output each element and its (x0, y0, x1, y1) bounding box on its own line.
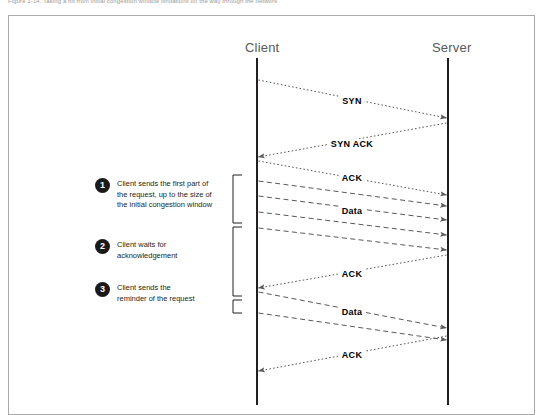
message-label-data-2: Data (339, 206, 366, 216)
annotation-badge-1: 1 (95, 178, 110, 193)
message-arrow-data-6 (259, 313, 447, 340)
lifeline-header-client: Client (245, 40, 279, 55)
annotation-badge-2: 2 (95, 239, 110, 254)
annotation-text-3: Client sends the reminder of the request (117, 282, 195, 304)
brackets-group (233, 175, 242, 313)
annotation-text-1: Client sends the first part of the reque… (117, 178, 212, 211)
annotation-1: 1Client sends the first part of the requ… (95, 178, 212, 211)
message-label-ack-1: ACK (339, 173, 365, 183)
arrows-group (259, 80, 447, 371)
message-label-syn: SYN (339, 96, 364, 106)
annotation-2: 2Client waits for acknowledgement (95, 239, 177, 261)
annotation-3: 3Client sends the reminder of the reques… (95, 282, 195, 304)
message-label-ack-2: ACK (339, 269, 365, 279)
message-label-ack-3: ACK (339, 350, 365, 360)
annotation-text-2: Client waits for acknowledgement (117, 239, 177, 261)
message-label-data-5: Data (339, 307, 366, 317)
message-arrow-data-1 (259, 181, 447, 206)
annotation-badge-3: 3 (95, 282, 110, 297)
bracket-1 (233, 175, 242, 223)
lifeline-header-server: Server (432, 40, 472, 55)
message-label-syn-ack: SYN ACK (328, 139, 376, 149)
bracket-3 (233, 300, 242, 313)
bracket-2 (233, 227, 242, 296)
